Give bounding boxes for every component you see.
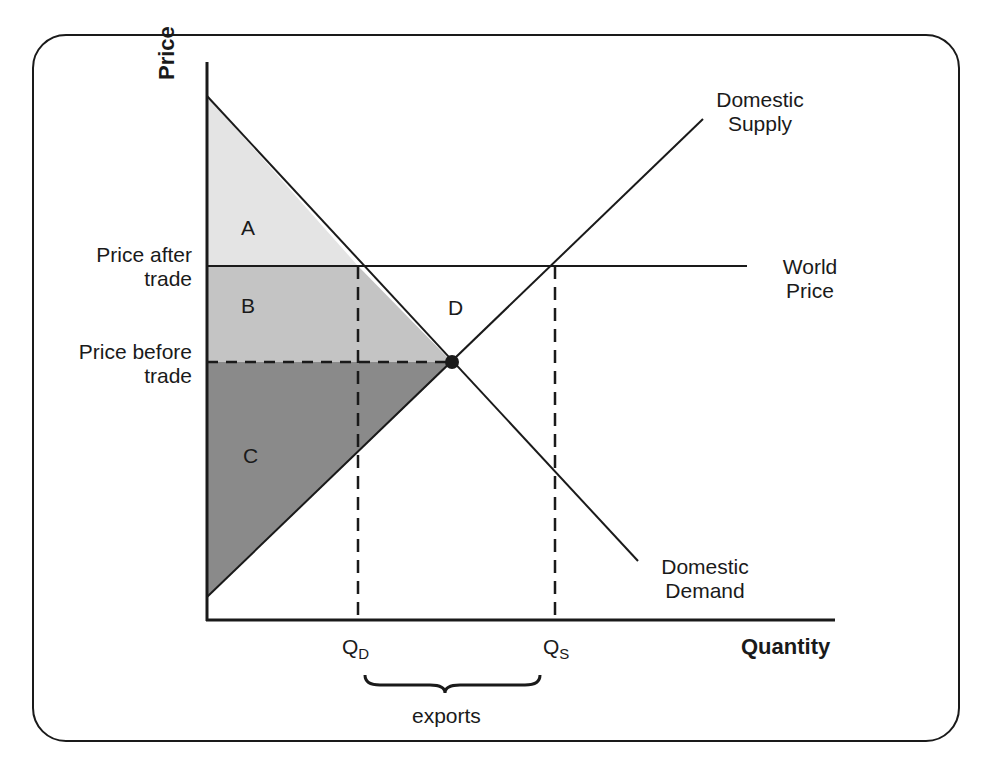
y-axis-label: Price [155, 26, 179, 80]
exports-label: exports [412, 704, 481, 728]
price-before-trade-label: Price before trade [40, 340, 192, 388]
region-a-label: A [241, 216, 255, 240]
qs-label: QS [543, 635, 569, 666]
qd-label: QD [342, 635, 369, 666]
x-axis-label: Quantity [741, 635, 830, 659]
price-after-trade-label: Price after trade [40, 243, 192, 291]
demand-label: Domestic Demand [645, 555, 765, 603]
world-price-label: World Price [765, 255, 855, 303]
supply-label: Domestic Supply [700, 88, 820, 136]
region-d-label: D [448, 296, 463, 320]
exports-brace [365, 675, 540, 693]
region-b-label: B [241, 294, 255, 318]
region-c-label: C [243, 444, 258, 468]
equilibrium-point [445, 355, 459, 369]
